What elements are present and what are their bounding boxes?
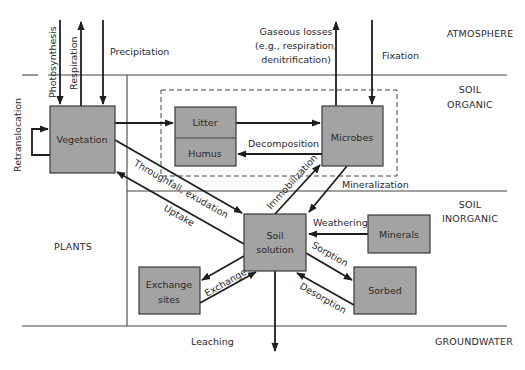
sorbed-label: Sorbed	[368, 285, 402, 296]
soil-solution-label-line1: Soil	[266, 230, 283, 241]
region-soil-inorganic-line1: SOIL	[459, 199, 482, 210]
minerals-box: Minerals	[368, 215, 430, 253]
uptake-label: Uptake	[162, 202, 197, 228]
region-plants: PLANTS	[54, 241, 92, 252]
photosynthesis-label: Photosynthesis	[47, 26, 58, 98]
region-groundwater: GROUNDWATER	[435, 336, 513, 347]
leaching-label: Leaching	[191, 336, 234, 347]
weathering-label: Weathering	[313, 217, 368, 228]
soil-solution-box: Soil solution	[244, 214, 306, 271]
exchange-sites-label-line2: sites	[158, 294, 180, 305]
region-atmosphere: ATMOSPHERE	[447, 28, 514, 39]
minerals-label: Minerals	[379, 229, 419, 240]
exchange-sites-label-line1: Exchange	[146, 279, 193, 290]
microbes-label: Microbes	[331, 132, 373, 143]
region-soil-inorganic-line2: INORGANIC	[442, 213, 498, 224]
precipitation-label: Precipitation	[110, 46, 169, 57]
humus-label: Humus	[188, 148, 221, 159]
exchange-sites-box: Exchange sites	[139, 267, 200, 314]
region-soil-organic-line2: ORGANIC	[447, 99, 493, 110]
sorption-label: Sorption	[310, 239, 350, 269]
respiration-label: Respiration	[68, 36, 79, 90]
gaseous-losses-label-line2: (e.g., respiration,	[255, 40, 337, 51]
retranslocation-label: Retranslocation	[12, 98, 23, 172]
region-soil-organic-line1: SOIL	[459, 84, 482, 95]
soil-solution-label-line2: solution	[256, 244, 294, 255]
gaseous-losses-label-line3: denitrification)	[261, 54, 331, 65]
microbes-box: Microbes	[322, 106, 383, 166]
litter-humus-box: Litter Humus	[175, 107, 236, 166]
exchange-label: Exchange	[203, 266, 249, 299]
vegetation-box: Vegetation	[50, 106, 115, 173]
retranslocation-arrow	[32, 129, 50, 155]
litter-label: Litter	[192, 117, 217, 128]
immobilization-label: Immobilization	[264, 152, 319, 211]
decomposition-label: Decomposition	[248, 138, 319, 149]
mineralization-label: Mineralization	[342, 179, 409, 190]
nutrient-cycle-diagram: ATMOSPHERE SOIL ORGANIC SOIL INORGANIC P…	[0, 0, 525, 370]
fixation-label: Fixation	[382, 50, 419, 61]
gaseous-losses-label-line1: Gaseous losses	[260, 26, 333, 37]
sorbed-box: Sorbed	[354, 267, 416, 314]
vegetation-label: Vegetation	[56, 134, 107, 145]
